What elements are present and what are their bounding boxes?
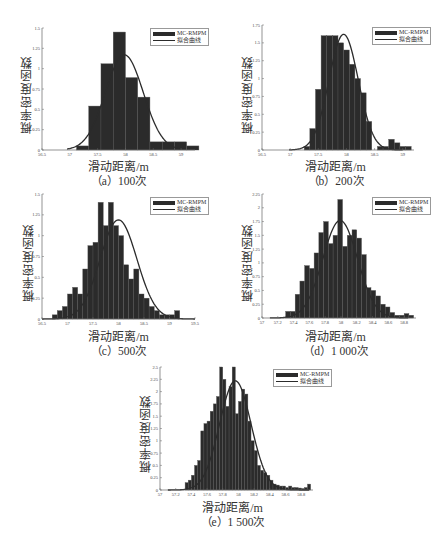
x-tick-label: 57.8 <box>321 320 330 325</box>
histogram-bar <box>232 367 235 490</box>
legend-fit-label: 拟合曲线 <box>177 37 201 44</box>
y-tick-label: 1 <box>38 233 40 238</box>
chart-panel-d: 00.250.50.7511.251.51.7522.255757.257.45… <box>217 180 434 355</box>
chart-panel-e: 00.250.50.7511.251.51.7522.252.55757.257… <box>110 355 327 537</box>
histogram-bar <box>242 389 245 490</box>
histogram-bar <box>362 255 367 318</box>
histogram-bar <box>216 397 219 490</box>
histogram-bar <box>344 50 350 150</box>
x-tick-label: 58 <box>339 320 344 325</box>
histogram-bar <box>260 470 263 490</box>
legend-swatch-hist <box>276 373 298 377</box>
histogram-bar <box>226 406 229 490</box>
histogram-bar <box>125 78 137 150</box>
histogram-bar <box>149 307 154 320</box>
legend-hist-label: MC-RMPM <box>177 30 206 37</box>
histogram-bar <box>338 200 343 318</box>
x-tick-label: 59.5 <box>191 321 200 326</box>
x-tick-label: 58.2 <box>353 320 361 325</box>
histogram-bar <box>389 139 395 150</box>
legend-fit-label: 拟合曲线 <box>300 378 324 385</box>
legend-swatch-fit <box>375 39 397 40</box>
histogram-bar <box>257 465 260 490</box>
x-tick-label: 57 <box>158 492 163 497</box>
legend-hist-label: MC-RMPM <box>177 199 206 206</box>
y-tick-label: 0.25 <box>150 475 159 480</box>
x-tick-label: 57.6 <box>305 320 314 325</box>
y-tick-label: 2.25 <box>150 377 159 382</box>
legend-swatch-fit <box>276 381 298 382</box>
legend-d: MC-RMPM 拟合曲线 <box>372 197 431 215</box>
y-tick-label: 1 <box>156 438 158 443</box>
histogram-bar <box>204 424 207 490</box>
x-tick-label: 59 <box>167 321 172 326</box>
y-axis-label-d: 概率密度函数 <box>239 224 256 302</box>
y-tick-label: 1.5 <box>34 192 40 197</box>
x-tick-label: 58 <box>116 321 121 326</box>
legend-swatch-hist <box>375 31 397 35</box>
histogram-bar <box>310 129 316 150</box>
y-axis-label-e: 概率密度函数 <box>137 395 154 473</box>
legend-a: MC-RMPM 拟合曲线 <box>150 28 209 46</box>
histogram-bar <box>98 202 103 319</box>
y-axis-label-c: 概率密度函数 <box>20 224 37 302</box>
histogram-bar <box>129 279 134 319</box>
histogram-bar <box>83 269 88 319</box>
legend-hist-label: MC-RMPM <box>399 199 428 206</box>
histogram-bar <box>113 32 125 150</box>
y-axis-label-a: 概率密度函数 <box>18 56 35 134</box>
histogram-bar <box>134 269 139 319</box>
x-tick-label: 57.2 <box>274 320 282 325</box>
x-tick-label: 58.5 <box>140 321 149 326</box>
y-tick-label: 1.5 <box>254 40 260 45</box>
histogram-bar <box>328 244 333 318</box>
y-tick-label: 2 <box>156 389 158 394</box>
y-tick-label: 2.25 <box>252 192 261 197</box>
x-tick-label: 58.8 <box>400 320 409 325</box>
x-tick-label: 58 <box>236 492 241 497</box>
histogram-bar <box>357 238 362 318</box>
legend-fit-label: 拟合曲线 <box>399 206 423 213</box>
y-tick-label: 1.75 <box>252 23 261 28</box>
histogram-bar <box>347 235 352 318</box>
y-tick-label: 0.25 <box>252 302 261 307</box>
histogram-bar <box>220 367 223 490</box>
histogram-bar <box>349 64 355 150</box>
histogram-bar <box>394 143 400 150</box>
legend-swatch-fit <box>153 209 175 210</box>
x-tick-label: 57 <box>260 320 265 325</box>
histogram-bar <box>338 43 344 150</box>
histogram-bars <box>76 32 198 150</box>
x-tick-label: 58.8 <box>297 492 306 497</box>
chart-panel-b: 00.250.50.7511.251.51.7556.55757.55858.5… <box>217 0 434 180</box>
y-tick-label: 1.5 <box>34 26 40 31</box>
histogram-bar <box>251 441 254 490</box>
histogram-bar <box>78 294 83 319</box>
legend-hist-label: MC-RMPM <box>300 371 329 378</box>
caption-e: （e）1 500次 <box>110 513 327 529</box>
chart-panel-a: 00.250.50.7511.251.556.55757.55858.559 M… <box>0 0 217 180</box>
histogram-bar <box>319 233 324 318</box>
legend-hist-label: MC-RMPM <box>399 29 428 36</box>
histogram-bar <box>229 387 232 490</box>
histogram-bar <box>235 414 238 490</box>
legend-swatch-hist <box>153 201 175 205</box>
y-axis-label-b: 概率密度函数 <box>239 56 256 134</box>
histogram-bar <box>308 484 311 490</box>
histogram-bars <box>286 200 414 318</box>
histogram-bar <box>327 36 333 150</box>
histogram-bars <box>304 36 411 150</box>
x-tick-label: 57.4 <box>290 320 299 325</box>
histogram-bar <box>108 202 113 319</box>
histogram-bar <box>201 431 204 490</box>
histogram-bar <box>113 226 118 319</box>
x-tick-label: 58.6 <box>282 492 291 497</box>
legend-fit-label: 拟合曲线 <box>177 206 201 213</box>
histogram-bar <box>119 236 124 319</box>
chart-panel-c: 00.250.50.7511.251.556.55757.55858.55959… <box>0 180 217 355</box>
histogram-bar <box>144 298 149 319</box>
histogram-bar <box>238 401 241 490</box>
legend-swatch-fit <box>153 40 175 41</box>
histogram-bar <box>333 235 338 318</box>
legend-e: MC-RMPM 拟合曲线 <box>273 369 332 387</box>
